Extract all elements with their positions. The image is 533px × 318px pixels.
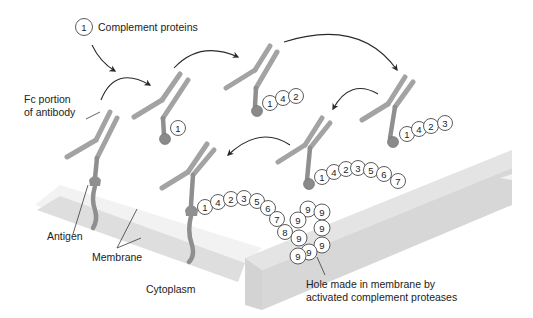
antibody-arm-left <box>162 172 188 188</box>
complement-5: 5 <box>368 165 373 176</box>
complement-8: 8 <box>282 227 287 238</box>
complement-7: 7 <box>395 176 400 187</box>
complement-1: 1 <box>404 129 409 140</box>
membrane <box>35 150 512 310</box>
complement-4: 4 <box>280 93 285 104</box>
arrow-complement-to-antibody <box>92 45 115 71</box>
complement-9: 9 <box>295 215 300 226</box>
antibody-arm-right <box>97 118 117 158</box>
stage-4-antibody: 1 4 2 3 <box>362 77 453 148</box>
complement-4: 4 <box>331 167 336 178</box>
fc-portion-label-line1: Fc portion <box>24 93 71 105</box>
complement-3: 3 <box>355 163 360 174</box>
arrows <box>92 34 397 155</box>
antibody-arm-right <box>163 80 188 118</box>
antibody-arm-left <box>226 70 255 88</box>
complement-9: 9 <box>319 207 324 218</box>
complement-1: 1 <box>267 98 272 109</box>
antibody-arm-left <box>278 145 305 162</box>
complement-chain: 1 <box>171 121 186 136</box>
fc-stem <box>307 148 310 180</box>
fc-portion-label-line2: of antibody <box>24 106 76 118</box>
stage-2-antibody: 1 <box>134 74 188 145</box>
stage-5-antibody: 1 4 2 3 5 6 7 <box>278 118 406 190</box>
fc-stem <box>255 88 256 106</box>
arrow-stage-2-to-3 <box>174 51 238 68</box>
fc-stem <box>163 118 164 135</box>
antigen-stalk <box>93 186 96 228</box>
complement-9: 9 <box>305 204 310 215</box>
complement-9: 9 <box>295 251 300 262</box>
antibody-arm-left <box>67 140 96 157</box>
antibody-arm-left <box>362 104 388 120</box>
antibody-arm-left <box>134 100 162 117</box>
complement-5: 5 <box>254 196 259 207</box>
complement-1: 1 <box>175 123 180 134</box>
complement-3: 3 <box>241 193 246 204</box>
fc-stem <box>390 107 395 138</box>
hole-label-line2: activated complement proteases <box>306 291 457 303</box>
complement-key: 1 Complement proteins <box>76 19 198 36</box>
complement-2: 2 <box>293 91 298 102</box>
arrow-stage-3-to-4 <box>284 34 397 70</box>
complement-4: 4 <box>416 124 421 135</box>
complement-1: 1 <box>202 202 207 213</box>
complement-1: 1 <box>319 172 324 183</box>
complement-chain: 1 4 2 3 5 6 7 8 <box>198 191 293 240</box>
membrane-label: Membrane <box>92 251 142 263</box>
complement-4: 4 <box>215 197 220 208</box>
complement-chain: 1 4 2 <box>263 89 304 111</box>
arrow-stage-4-to-5 <box>333 89 378 109</box>
complement-7: 7 <box>274 214 279 225</box>
complement-9: 9 <box>319 223 324 234</box>
complement-key-label: Complement proteins <box>98 21 198 33</box>
fc-binding-site <box>304 179 315 190</box>
key-number: 1 <box>81 22 86 33</box>
complement-6: 6 <box>265 203 270 214</box>
complement-9: 9 <box>296 233 301 244</box>
fc-binding-site <box>388 137 399 148</box>
antigen-label: Antigen <box>47 230 83 242</box>
fc-binding-site <box>160 134 171 145</box>
complement-2: 2 <box>228 194 233 205</box>
complement-chain: 1 4 2 3 5 6 7 <box>315 161 406 189</box>
fc-stem <box>95 158 97 178</box>
arrow-stage-5-to-6 <box>228 137 290 155</box>
fc-leader-line <box>86 112 100 119</box>
cytoplasm-label: Cytoplasm <box>146 283 196 295</box>
arrow-stage-1-to-2 <box>101 78 150 100</box>
complement-2: 2 <box>343 164 348 175</box>
antibody-arm-right <box>256 52 277 88</box>
complement-activation-diagram: 1 1 4 2 1 4 2 3 <box>0 0 533 318</box>
fc-stem <box>191 175 193 205</box>
hole-label-line1: Hole made in membrane by <box>306 278 436 290</box>
complement-9: 9 <box>319 240 324 251</box>
complement-6: 6 <box>381 169 386 180</box>
complement-3: 3 <box>442 118 447 129</box>
diagram-canvas: 1 1 4 2 1 4 2 3 <box>0 0 533 318</box>
complement-chain: 1 4 2 3 <box>400 116 453 142</box>
complement-9: 9 <box>306 247 311 258</box>
fc-binding-site <box>252 106 263 117</box>
complement-2: 2 <box>428 121 433 132</box>
